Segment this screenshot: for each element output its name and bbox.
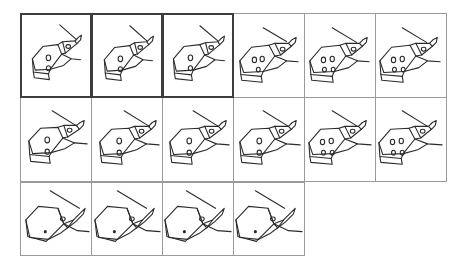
hand-sketch-icon [163,98,233,181]
hand-sketch-icon [234,183,304,255]
frame-grid-row [20,13,452,98]
hand-sketch-icon [21,98,91,181]
frame-cell-6[interactable] [375,13,447,98]
frame-cell-empty [304,182,376,256]
frame-cell-12[interactable] [375,97,447,182]
frame-cell-8[interactable] [91,97,163,182]
hand-sketch-icon [305,14,375,97]
frame-cell-16[interactable] [233,182,305,256]
frame-cell-4[interactable] [233,13,305,98]
frame-cell-10[interactable] [233,97,305,182]
hand-sketch-icon [163,183,233,255]
frame-grid [20,13,452,258]
frame-grid-row [20,98,452,183]
hand-sketch-icon [376,14,446,97]
frame-cell-13[interactable] [20,182,92,256]
hand-sketch-icon [305,98,375,181]
frame-cell-5[interactable] [304,13,376,98]
hand-sketch-icon [234,14,304,97]
frame-cell-9[interactable] [162,97,234,182]
hand-sketch-icon [92,98,162,181]
hand-sketch-icon [21,183,91,255]
hand-sketch-icon [164,15,232,96]
hand-sketch-icon [234,98,304,181]
hand-sketch-icon [376,98,446,181]
frame-cell-7[interactable] [20,97,92,182]
frame-cell-14[interactable] [91,182,163,256]
hand-sketch-icon [93,15,161,96]
frame-grid-row [20,183,452,257]
hand-sketch-icon [22,15,90,96]
hand-sketch-icon [92,183,162,255]
frame-cell-3[interactable] [162,13,234,98]
frame-cell-15[interactable] [162,182,234,256]
frame-cell-2[interactable] [91,13,163,98]
frame-cell-empty [375,182,447,256]
frame-cell-11[interactable] [304,97,376,182]
frame-cell-1[interactable] [20,13,92,98]
